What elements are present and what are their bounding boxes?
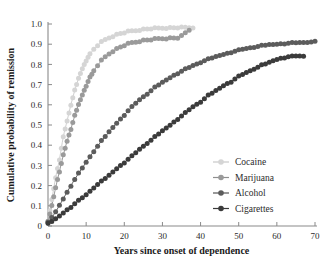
data-point bbox=[309, 40, 314, 45]
data-point bbox=[301, 40, 306, 45]
x-tick-label: 30 bbox=[158, 231, 168, 241]
data-point bbox=[63, 146, 68, 151]
data-point bbox=[74, 108, 79, 113]
data-point bbox=[156, 83, 161, 88]
data-point bbox=[72, 201, 77, 206]
data-point bbox=[293, 54, 298, 59]
data-point bbox=[68, 184, 73, 189]
legend-label: Cocaine bbox=[235, 157, 266, 167]
data-point bbox=[210, 56, 215, 61]
data-point bbox=[80, 66, 85, 71]
legend-marker-icon bbox=[218, 175, 224, 181]
data-point bbox=[76, 171, 81, 176]
y-tick-label: 1.0 bbox=[31, 19, 43, 29]
data-point bbox=[255, 44, 260, 49]
data-point bbox=[122, 113, 127, 118]
data-point bbox=[89, 72, 94, 77]
x-tick-label: 10 bbox=[82, 231, 92, 241]
legend-marker-icon bbox=[218, 206, 224, 212]
y-axis-title: Cumulative probability of remission bbox=[5, 47, 16, 202]
data-point bbox=[65, 190, 70, 195]
data-point bbox=[126, 108, 131, 113]
data-point bbox=[103, 134, 108, 139]
data-point bbox=[57, 213, 62, 218]
data-point bbox=[271, 42, 276, 47]
y-tick-label: 0.9 bbox=[31, 39, 43, 49]
y-tick-label: 0.8 bbox=[31, 60, 43, 70]
data-point bbox=[187, 65, 192, 70]
data-point bbox=[66, 110, 71, 115]
data-point bbox=[278, 41, 283, 46]
data-point bbox=[263, 43, 268, 48]
data-point bbox=[76, 102, 81, 107]
data-point bbox=[286, 41, 291, 46]
data-point bbox=[179, 113, 184, 118]
data-point bbox=[107, 173, 112, 178]
y-tick-label: 0.5 bbox=[31, 120, 43, 130]
data-point bbox=[84, 160, 89, 165]
data-point bbox=[72, 113, 77, 118]
data-point bbox=[232, 49, 237, 54]
data-point bbox=[217, 86, 222, 91]
data-point bbox=[110, 49, 115, 54]
x-tick-label: 40 bbox=[196, 231, 206, 241]
data-point bbox=[114, 121, 119, 126]
x-axis-ticks: 010203040506070 bbox=[46, 222, 320, 241]
data-point bbox=[99, 58, 104, 63]
chart-figure: 00.10.20.30.40.50.60.70.80.91.0 01020304… bbox=[0, 0, 330, 269]
data-point bbox=[225, 81, 230, 86]
data-point bbox=[202, 58, 207, 63]
data-points bbox=[46, 24, 318, 225]
data-point bbox=[210, 91, 215, 96]
legend-label: Alcohol bbox=[235, 188, 266, 198]
legend-entry-cocaine[interactable]: Cocaine bbox=[213, 157, 266, 167]
legend-entry-marijuana[interactable]: Marijuana bbox=[213, 173, 275, 183]
y-tick-label: 0.3 bbox=[31, 161, 43, 171]
data-point bbox=[80, 92, 85, 97]
legend-label: Marijuana bbox=[235, 173, 275, 183]
legend-entry-alcohol[interactable]: Alcohol bbox=[213, 188, 266, 198]
x-tick-label: 60 bbox=[272, 231, 282, 241]
data-point bbox=[194, 102, 199, 107]
data-point bbox=[66, 133, 71, 138]
data-point bbox=[95, 144, 100, 149]
data-point bbox=[61, 152, 66, 157]
x-tick-label: 50 bbox=[234, 231, 244, 241]
data-point bbox=[110, 125, 115, 130]
data-point bbox=[217, 53, 222, 58]
data-point bbox=[240, 47, 245, 52]
data-point bbox=[86, 79, 91, 84]
data-point bbox=[49, 203, 54, 208]
legend-entry-cigarettes[interactable]: Cigarettes bbox=[213, 204, 274, 214]
data-point bbox=[53, 185, 58, 190]
y-tick-label: 0.2 bbox=[31, 181, 42, 191]
data-point bbox=[126, 157, 131, 162]
data-point bbox=[114, 166, 119, 171]
data-point bbox=[80, 165, 85, 170]
data-point bbox=[59, 161, 64, 166]
data-point bbox=[53, 209, 58, 214]
data-point bbox=[118, 116, 123, 121]
data-point bbox=[70, 95, 75, 100]
data-point bbox=[65, 118, 70, 123]
data-point bbox=[70, 120, 75, 125]
data-point bbox=[148, 88, 153, 93]
chart-legend: CocaineMarijuanaAlcoholCigarettes bbox=[213, 157, 275, 214]
data-point bbox=[110, 169, 115, 174]
data-point bbox=[103, 176, 108, 181]
data-point bbox=[148, 138, 153, 143]
data-point bbox=[240, 72, 245, 77]
data-point bbox=[141, 144, 146, 149]
data-point bbox=[78, 97, 83, 102]
data-point bbox=[80, 195, 85, 200]
data-point bbox=[202, 96, 207, 101]
data-point bbox=[63, 127, 68, 132]
y-axis-ticks: 00.10.20.30.40.50.60.70.80.91.0 bbox=[31, 19, 52, 231]
data-point bbox=[187, 28, 192, 33]
legend-label: Cigarettes bbox=[235, 204, 274, 214]
x-tick-label: 20 bbox=[120, 231, 130, 241]
data-point bbox=[156, 132, 161, 137]
data-point bbox=[133, 101, 138, 106]
y-tick-label: 0.1 bbox=[31, 201, 42, 211]
data-point bbox=[61, 134, 66, 139]
